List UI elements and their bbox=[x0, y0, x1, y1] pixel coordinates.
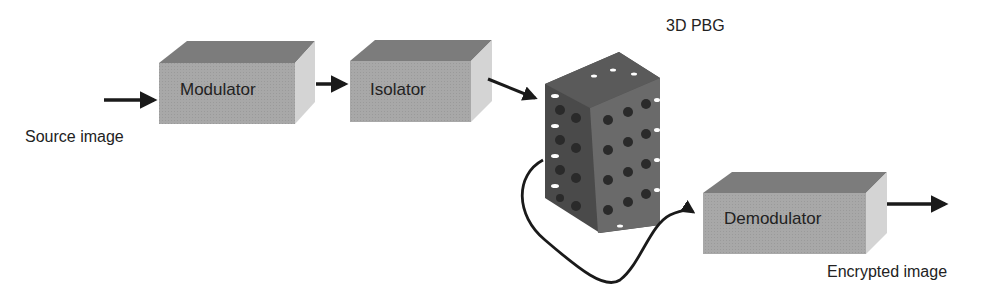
demodulator-label: Demodulator bbox=[724, 209, 821, 229]
pbg-label: 3D PBG bbox=[666, 17, 725, 35]
pbg-lattice-cube bbox=[545, 52, 660, 233]
encrypted-image-label: Encrypted image bbox=[827, 263, 947, 281]
encryption-block-diagram: Modulator Isolator 3D PBG Demodulator So… bbox=[0, 0, 998, 305]
modulator-label: Modulator bbox=[180, 80, 256, 100]
isolator-to-pbg-arrow bbox=[488, 79, 535, 98]
source-image-label: Source image bbox=[25, 128, 124, 146]
isolator-label: Isolator bbox=[370, 80, 426, 100]
diagram-canvas bbox=[0, 0, 998, 305]
